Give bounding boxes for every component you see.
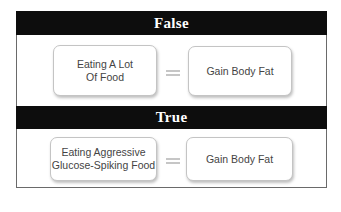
true-right-box: Gain Body Fat (186, 137, 293, 181)
equals-icon (166, 70, 180, 78)
false-left-line-1: Eating A Lot (77, 58, 133, 71)
equals-icon (166, 158, 180, 166)
true-header: True (16, 106, 327, 129)
false-right-box: Gain Body Fat (188, 46, 292, 96)
false-left-box: Eating A Lot Of Food (53, 45, 157, 96)
true-left-line-2: Glucose-Spiking Food (52, 159, 155, 172)
true-right-label: Gain Body Fat (206, 153, 273, 166)
false-left-line-2: Of Food (77, 71, 133, 84)
true-left-line-1: Eating Aggressive (52, 146, 155, 159)
false-header: False (16, 11, 327, 35)
false-right-label: Gain Body Fat (206, 65, 273, 78)
true-left-box: Eating Aggressive Glucose-Spiking Food (50, 137, 157, 181)
